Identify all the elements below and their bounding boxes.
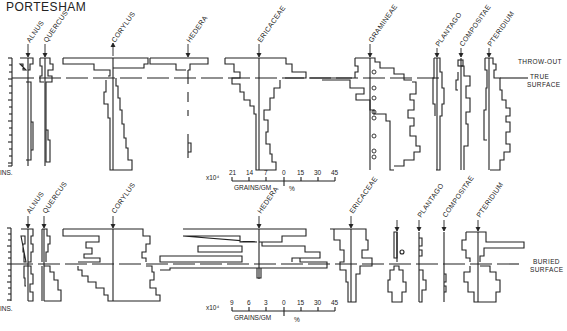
surface-label-lower: SURFACE: [530, 266, 564, 273]
lower-tick-45: 45: [331, 299, 339, 306]
upper-tick-15: 15: [297, 169, 305, 176]
lower-tick-3: 3: [264, 299, 268, 306]
upper-gramineae-column: [310, 58, 420, 170]
upper-panel: INS.: [0, 3, 562, 192]
upper-tick-14: 14: [246, 169, 254, 176]
upper-tick-21: 21: [229, 169, 237, 176]
upper-hedera-column: [150, 58, 208, 158]
upper-grains-label: GRAINS/GM: [234, 184, 271, 191]
lower-label-plantago: PLANTAGO: [416, 182, 445, 219]
upper-tick-30: 30: [314, 169, 322, 176]
lower-quercus-column: [42, 229, 61, 301]
lower-label-quercus: QUERCUS: [41, 180, 69, 215]
upper-alnus-column: [20, 58, 33, 166]
upper-arrows: [26, 43, 491, 57]
pollen-diagram: INS.: [0, 0, 567, 331]
upper-depth-axis: [8, 58, 12, 166]
lower-grains-label: GRAINS/GM: [234, 314, 271, 321]
lower-tick-30: 30: [314, 299, 322, 306]
lower-tick-15: 15: [297, 299, 305, 306]
lower-depth-unit: INS.: [0, 305, 13, 312]
upper-quercus-column: [40, 58, 53, 166]
lower-gramineae-column: [388, 232, 406, 302]
lower-percent-label: %: [294, 316, 300, 323]
lower-scale-multiplier: x10⁴: [206, 304, 219, 311]
upper-corylus-column: [63, 58, 148, 170]
upper-depth-unit: INS.: [0, 169, 13, 176]
lower-label-ericaceae: ERICACEAE: [348, 175, 379, 214]
upper-label-gramineae: GRAMINEAE: [367, 3, 398, 44]
lower-compositae-column: [444, 232, 446, 302]
lower-ericaceae-column: [330, 229, 372, 302]
upper-pteridium-column: [484, 58, 510, 170]
upper-tick-7: 7: [264, 169, 268, 176]
lower-hedera-column: [160, 229, 327, 279]
surface-label-upper: SURFACE: [527, 81, 561, 88]
lower-depth-axis: [7, 228, 11, 301]
upper-label-corylus: CORYLUS: [110, 10, 136, 43]
upper-label-pteridium: PTERIDIUM: [486, 10, 515, 48]
upper-label-quercus: QUERCUS: [42, 9, 70, 44]
lower-pteridium-column: [462, 232, 524, 302]
upper-ericaceae-column: [225, 58, 306, 170]
lower-tick-9: 9: [230, 299, 234, 306]
upper-label-hedera: HEDERA: [185, 14, 209, 43]
lower-tick-6: 6: [247, 299, 251, 306]
upper-compositae-column: [456, 58, 470, 170]
upper-scale-multiplier: x10⁴: [206, 174, 219, 181]
upper-tick-45: 45: [331, 169, 339, 176]
upper-percent-label: %: [289, 185, 295, 192]
lower-panel: INS.: [0, 174, 564, 323]
lower-alnus-column: [21, 229, 33, 301]
lower-tick-0: 0: [282, 299, 286, 306]
upper-label-ericaceae: ERICACEAE: [256, 4, 287, 43]
true-label: TRUE: [530, 73, 550, 80]
lower-label-compositae: COMPOSITAE: [441, 174, 475, 218]
buried-label: BURIED: [533, 258, 560, 265]
lower-plantago-column: [419, 232, 426, 302]
upper-plantago-column: [433, 58, 444, 170]
throw-out-label: THROW-OUT: [518, 58, 562, 65]
lower-corylus-column: [63, 229, 160, 301]
lower-label-corylus: CORYLUS: [110, 181, 136, 214]
upper-tick-0: 0: [282, 169, 286, 176]
lower-label-pteridium: PTERIDIUM: [475, 181, 504, 219]
